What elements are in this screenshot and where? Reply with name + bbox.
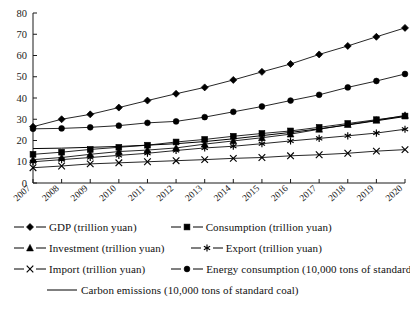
data-point-marker — [145, 120, 151, 126]
data-point-marker — [173, 90, 180, 97]
data-point-marker — [259, 104, 265, 110]
x-tick-label: 2014 — [212, 183, 233, 203]
legend-label-export: Export (trillion yuan) — [226, 242, 322, 254]
y-tick-label: 30 — [17, 114, 28, 125]
data-point-marker — [202, 114, 208, 120]
legend-row-4: Carbon emissions (10,000 tons of standar… — [0, 279, 410, 300]
data-point-marker — [287, 61, 294, 68]
x-marker-icon — [14, 263, 46, 275]
legend-item-investment[interactable]: Investment (trillion yuan) — [14, 242, 165, 254]
legend-item-carbon-emissions[interactable]: Carbon emissions (10,000 tons of standar… — [46, 284, 299, 296]
x-tick-label: 2007 — [12, 183, 33, 203]
circle-marker-icon — [171, 263, 203, 275]
y-tick-label: 20 — [17, 135, 28, 146]
data-point-marker — [58, 116, 65, 123]
data-series-group — [30, 24, 409, 171]
x-tick-label: 2009 — [69, 183, 90, 203]
y-tick-label: 70 — [17, 29, 28, 40]
data-point-marker — [230, 109, 236, 115]
legend-label-import: Import (trillion yuan) — [49, 263, 145, 275]
y-tick-label: 50 — [17, 71, 28, 82]
y-tick-label: 60 — [17, 50, 28, 61]
series-investment — [30, 112, 409, 163]
data-point-marker — [59, 125, 65, 131]
data-point-marker — [258, 68, 265, 75]
y-tick-label: 10 — [17, 156, 28, 167]
data-point-marker — [173, 118, 179, 124]
data-point-marker — [184, 224, 190, 230]
y-tick-label: 40 — [17, 93, 28, 104]
diamond-marker-icon — [14, 221, 46, 233]
data-point-marker — [87, 111, 94, 118]
legend-row-3: Import (trillion yuan) Energy consumptio… — [0, 258, 410, 279]
legend-label-carbon-emissions: Carbon emissions (10,000 tons of standar… — [81, 284, 299, 296]
data-point-marker — [316, 51, 323, 58]
legend-label-energy-consumption: Energy consumption (10,000 tons of stand… — [206, 263, 410, 275]
plot-area: 01020304050607080 2007200820092010201120… — [0, 0, 410, 218]
legend-row-2: Investment (trillion yuan) Export (trill… — [0, 237, 410, 258]
x-tick-label: 2012 — [155, 183, 176, 203]
x-tick-label: 2016 — [269, 183, 290, 203]
data-point-marker — [116, 123, 122, 129]
x-tick-label: 2008 — [40, 183, 61, 203]
legend-label-consumption: Consumption (trillion yuan) — [206, 221, 332, 233]
data-point-marker — [402, 24, 409, 31]
y-tick-label: 80 — [17, 8, 28, 19]
x-tick-label: 2013 — [183, 183, 204, 203]
data-point-marker — [204, 244, 210, 251]
x-tick-label: 2015 — [240, 183, 261, 203]
data-point-marker — [144, 97, 151, 104]
x-tick-label: 2020 — [384, 183, 405, 203]
data-point-marker — [30, 126, 36, 132]
data-point-marker — [184, 266, 190, 272]
legend-item-import[interactable]: Import (trillion yuan) — [14, 263, 145, 275]
square-marker-icon — [171, 221, 203, 233]
legend-label-gdp: GDP (trillion yuan) — [49, 221, 137, 233]
legend-item-gdp[interactable]: GDP (trillion yuan) — [14, 221, 137, 233]
triangle-marker-icon — [14, 242, 46, 254]
legend-label-investment: Investment (trillion yuan) — [49, 242, 165, 254]
x-axis: 2007200820092010201120122013201420152016… — [12, 179, 405, 203]
data-point-marker — [27, 244, 34, 251]
x-tick-label: 2010 — [97, 183, 118, 203]
legend-item-energy-consumption[interactable]: Energy consumption (10,000 tons of stand… — [171, 263, 410, 275]
x-tick-label: 2017 — [298, 183, 319, 203]
data-point-marker — [402, 71, 408, 77]
x-tick-label: 2011 — [126, 183, 147, 203]
data-point-marker — [373, 78, 379, 84]
data-point-marker — [27, 223, 34, 230]
data-point-marker — [344, 42, 351, 49]
data-point-marker — [373, 33, 380, 40]
data-point-marker — [345, 84, 351, 90]
data-point-marker — [316, 92, 322, 98]
line-marker-icon — [46, 284, 78, 296]
chart-figure: 01020304050607080 2007200820092010201120… — [0, 0, 410, 317]
legend-item-export[interactable]: Export (trillion yuan) — [191, 242, 322, 254]
data-point-marker — [201, 84, 208, 91]
data-point-marker — [288, 98, 294, 104]
data-point-marker — [115, 104, 122, 111]
x-tick-label: 2019 — [355, 183, 376, 203]
legend-item-consumption[interactable]: Consumption (trillion yuan) — [171, 221, 332, 233]
line-chart-svg: 01020304050607080 2007200820092010201120… — [0, 0, 410, 218]
data-point-marker — [230, 76, 237, 83]
asterisk-marker-icon — [191, 242, 223, 254]
chart-legend: GDP (trillion yuan) Consumption (trillio… — [0, 216, 410, 317]
data-point-marker — [87, 124, 93, 130]
legend-row-1: GDP (trillion yuan) Consumption (trillio… — [0, 216, 410, 237]
x-tick-label: 2018 — [326, 183, 347, 203]
data-point-marker — [27, 265, 34, 272]
